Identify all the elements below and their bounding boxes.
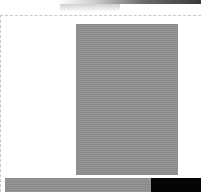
bottom-bar-dark-segment <box>151 178 201 192</box>
top-bar-shadow <box>60 4 120 12</box>
image-placeholder[interactable] <box>76 24 178 175</box>
